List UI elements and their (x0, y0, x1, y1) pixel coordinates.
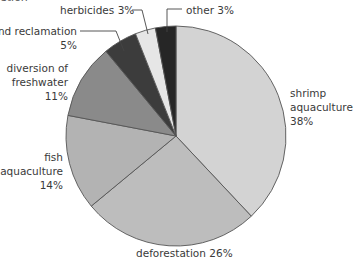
label-value: 38% (290, 114, 353, 128)
label-line: aquaculture (0, 164, 63, 178)
cropped-header-text: etion (0, 0, 28, 4)
label-line: shrimp (290, 86, 353, 100)
label-land-reclamation: land reclamation 5% (0, 24, 77, 52)
label-other: other 3% (186, 3, 234, 17)
label-value: 14% (0, 178, 63, 192)
label-fish-aquaculture: fish aquaculture 14% (0, 150, 63, 192)
label-line: aquaculture (290, 100, 353, 114)
label-deforestation: deforestation 26% (136, 246, 233, 259)
label-value: 11% (7, 89, 69, 103)
pie-slices (66, 26, 286, 246)
label-herbicides: herbicides 3% (60, 3, 134, 17)
label-line: fish (0, 150, 63, 164)
label-shrimp-aquaculture: shrimp aquaculture 38% (290, 86, 353, 128)
label-line: freshwater (7, 75, 69, 89)
label-line: diversion of (7, 61, 69, 75)
label-diversion-of-freshwater: diversion of freshwater 11% (7, 61, 69, 103)
label-value: 5% (0, 38, 77, 52)
label-line: land reclamation (0, 24, 77, 38)
